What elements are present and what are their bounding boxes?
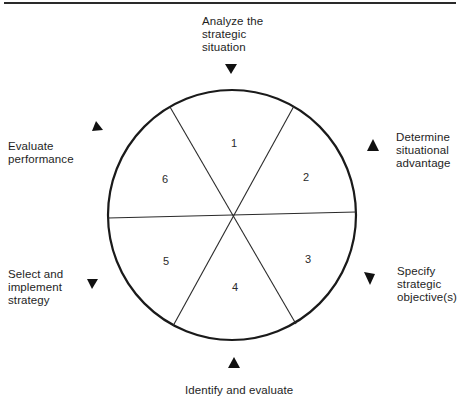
step-label-identify: Identify and evaluate [185,384,293,397]
arrow-up-icon-segment-4 [228,357,240,368]
step-label-analyze: Analyze the strategic situation [202,15,263,54]
step-label-select: Select and implement strategy [8,268,63,307]
segment-number-3: 3 [305,253,311,265]
step-label-specify: Specify strategic objective(s) [397,265,457,304]
arrow-down-icon-segment-1 [225,64,237,74]
segment-number-6: 6 [162,173,168,185]
arrow-up-icon-segment-2 [367,139,379,151]
arrow-up-right-icon-segment-6 [92,121,103,131]
segment-number-5: 5 [163,255,169,267]
arrow-down-left-icon-segment-3 [364,272,375,285]
arrow-down-icon-segment-5 [87,279,98,289]
segment-number-2: 2 [303,171,309,183]
segment-number-4: 4 [232,281,238,293]
step-label-determine: Determine situational advantage [396,131,451,170]
segment-number-1: 1 [231,137,237,149]
cycle-diagram [0,0,462,397]
step-label-evaluate: Evaluate performance [8,140,74,166]
